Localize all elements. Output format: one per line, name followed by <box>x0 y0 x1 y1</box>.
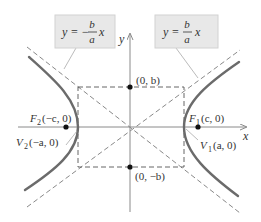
point-co-vertex-top <box>127 84 132 89</box>
svg-text:V: V <box>16 136 24 148</box>
svg-text:(a, 0): (a, 0) <box>213 139 237 152</box>
asymptote-label-negative: y = − b a x <box>55 15 115 48</box>
svg-text:1: 1 <box>208 145 212 154</box>
asymptote-label-positive: y = b a x <box>155 15 218 48</box>
point-co-vertex-bottom <box>127 164 132 169</box>
label-focus-right: F 1 (c, 0) <box>188 112 225 127</box>
svg-text:(−c, 0): (−c, 0) <box>42 112 72 125</box>
eq-denominator: a <box>89 33 95 45</box>
svg-text:F: F <box>188 112 196 124</box>
eq-variable: x <box>98 25 105 39</box>
x-axis-label: x <box>242 129 249 143</box>
leader-line-negative <box>64 48 76 69</box>
svg-text:1: 1 <box>196 118 200 127</box>
asymptote-positive-slope <box>27 50 240 207</box>
eq-variable: x <box>194 25 201 39</box>
leader-line-v1 <box>186 129 198 140</box>
eq-lhs: y = <box>61 25 78 39</box>
svg-text:V: V <box>200 139 208 151</box>
y-axis-label: y <box>118 32 125 46</box>
leader-line-positive <box>176 48 198 78</box>
point-focus-left <box>63 124 68 129</box>
svg-text:2: 2 <box>24 142 28 151</box>
svg-text:2: 2 <box>37 118 41 127</box>
svg-text:(c, 0): (c, 0) <box>201 112 225 125</box>
label-vertex-right: V 1 (a, 0) <box>200 139 237 154</box>
label-co-vertex-top: (0, b) <box>136 74 160 87</box>
eq-denominator: a <box>184 33 190 45</box>
asymptote-negative-slope <box>27 47 240 213</box>
eq-numerator: b <box>184 18 190 30</box>
eq-minus-sign: − <box>82 25 89 39</box>
hyperbola-diagram: y = − b a x y = b a x y x (0, b) (0, −b)… <box>0 0 261 222</box>
eq-lhs: y = <box>162 25 179 39</box>
label-co-vertex-bottom: (0, −b) <box>135 170 165 183</box>
label-vertex-left: V 2 (−a, 0) <box>16 136 59 151</box>
svg-text:F: F <box>29 112 37 124</box>
eq-numerator: b <box>89 18 95 30</box>
svg-text:(−a, 0): (−a, 0) <box>29 136 59 149</box>
